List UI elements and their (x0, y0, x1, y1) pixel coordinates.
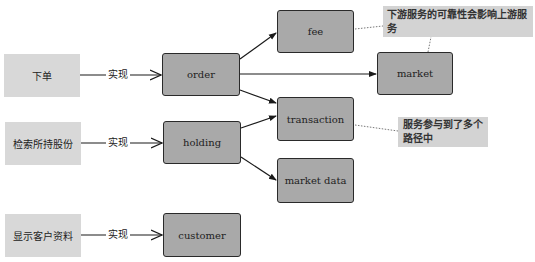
implements-label-customer: 实现 (106, 229, 130, 241)
service-market-data[interactable]: market data (277, 158, 354, 203)
multipath-note: 服务参与到了多个路径中 (398, 117, 488, 147)
service-label: holding (183, 137, 221, 148)
note-link-fee (355, 26, 383, 29)
feature-label: 下单 (32, 68, 52, 83)
service-label: transaction (287, 114, 345, 125)
feature-label: 检索所持股份 (13, 136, 73, 151)
note-link-transaction (355, 125, 398, 131)
feature-label: 显示客户资料 (13, 228, 73, 243)
service-order[interactable]: order (162, 53, 240, 96)
dep-holding-transaction (241, 116, 276, 128)
service-market[interactable]: market (377, 52, 453, 95)
feature-search-holdings[interactable]: 检索所持股份 (5, 122, 81, 165)
dep-order-transaction (240, 90, 276, 103)
service-customer[interactable]: customer (163, 213, 241, 257)
implements-label-order: 实现 (106, 69, 130, 81)
implements-label-holding: 实现 (106, 137, 130, 149)
service-label: fee (308, 26, 324, 37)
service-label: customer (178, 230, 225, 241)
feature-show-customer[interactable]: 显示客户资料 (5, 214, 81, 257)
reliability-note: 下游服务的可靠性会影响上游服务 (383, 6, 533, 37)
service-label: market data (285, 175, 347, 186)
service-transaction[interactable]: transaction (277, 97, 354, 141)
note-link-market (428, 37, 431, 52)
note-text: 服务参与到了多个路径中 (403, 118, 483, 146)
feature-place-order[interactable]: 下单 (4, 54, 80, 97)
dep-order-fee (240, 33, 276, 59)
dep-holding-market-data (241, 157, 276, 180)
service-label: market (397, 68, 433, 79)
service-fee[interactable]: fee (277, 10, 354, 53)
note-text: 下游服务的可靠性会影响上游服务 (387, 8, 529, 36)
service-label: order (187, 69, 215, 80)
service-holding[interactable]: holding (163, 121, 241, 164)
